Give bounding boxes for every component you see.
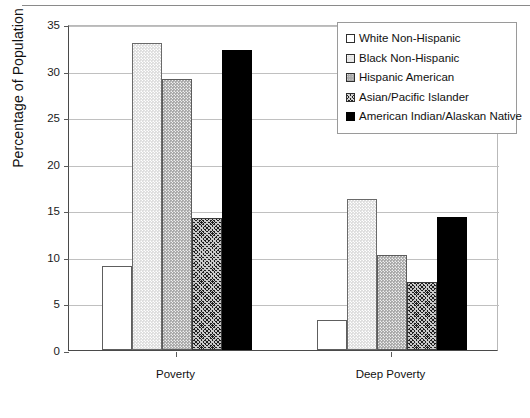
legend-item: White Non-Hispanic: [346, 29, 510, 49]
top-divider-rule: [22, 5, 530, 6]
bar: [162, 79, 192, 350]
y-axis-tick-label: 30: [20, 66, 60, 78]
bar: [317, 320, 347, 350]
y-axis-tick: [64, 166, 69, 167]
y-axis-tick-label: 15: [20, 205, 60, 217]
legend-swatch-icon: [346, 112, 355, 121]
legend-item-label: American Indian/Alaskan Native: [359, 111, 522, 123]
legend-item: American Indian/Alaskan Native: [346, 107, 510, 127]
legend-item: Asian/Pacific Islander: [346, 88, 510, 108]
y-axis-tick: [64, 352, 69, 353]
bar: [132, 43, 162, 350]
legend-item-label: Asian/Pacific Islander: [359, 92, 469, 104]
legend-item-label: White Non-Hispanic: [359, 33, 461, 45]
y-axis-tick-label: 0: [20, 345, 60, 357]
bar: [377, 255, 407, 350]
x-axis-tick: [391, 352, 392, 357]
y-axis-tick: [64, 119, 69, 120]
bar: [102, 266, 132, 350]
legend-item-label: Black Non-Hispanic: [359, 53, 459, 65]
bar: [222, 50, 252, 350]
legend-item: Hispanic American: [346, 68, 510, 88]
bar: [407, 282, 437, 350]
y-axis-tick-label: 25: [20, 112, 60, 124]
y-axis-tick-label: 5: [20, 298, 60, 310]
legend-swatch-icon: [346, 73, 355, 82]
y-axis-title: Percentage of Population: [10, 0, 26, 218]
chart-legend: White Non-HispanicBlack Non-HispanicHisp…: [337, 22, 517, 134]
y-axis-tick: [64, 259, 69, 260]
legend-swatch-icon: [346, 93, 355, 102]
y-axis-tick-label: 10: [20, 252, 60, 264]
legend-item: Black Non-Hispanic: [346, 49, 510, 69]
bar: [347, 199, 377, 350]
y-axis-tick-label: 35: [20, 19, 60, 31]
y-axis-tick: [64, 305, 69, 306]
y-axis-tick: [64, 73, 69, 74]
x-axis-category-label: Poverty: [156, 368, 195, 380]
legend-item-label: Hispanic American: [359, 72, 454, 84]
y-axis-tick: [64, 212, 69, 213]
bar: [437, 217, 467, 350]
x-axis-category-label: Deep Poverty: [356, 368, 426, 380]
y-axis-tick-label: 20: [20, 159, 60, 171]
x-axis-tick: [176, 352, 177, 357]
bar-chart-figure: Percentage of Population 05101520253035 …: [0, 0, 530, 418]
y-axis-tick: [64, 26, 69, 27]
legend-swatch-icon: [346, 54, 355, 63]
bar: [192, 218, 222, 350]
legend-swatch-icon: [346, 34, 355, 43]
